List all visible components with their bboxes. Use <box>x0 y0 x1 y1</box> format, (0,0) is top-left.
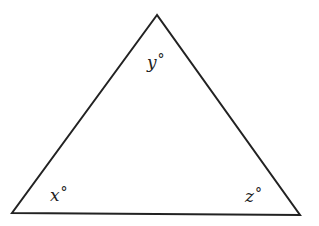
triangle-diagram: y° x° z° <box>0 0 319 226</box>
angle-label-top: y° <box>147 54 165 71</box>
degree-symbol: ° <box>61 184 68 200</box>
angle-variable-y: y <box>147 52 157 72</box>
degree-symbol: ° <box>255 185 262 201</box>
degree-symbol: ° <box>158 51 165 67</box>
angle-variable-z: z <box>245 186 254 206</box>
angle-label-bottom-right: z° <box>245 188 262 205</box>
angle-variable-x: x <box>50 185 60 205</box>
angle-label-bottom-left: x° <box>50 187 68 204</box>
triangle-shape <box>0 0 319 226</box>
